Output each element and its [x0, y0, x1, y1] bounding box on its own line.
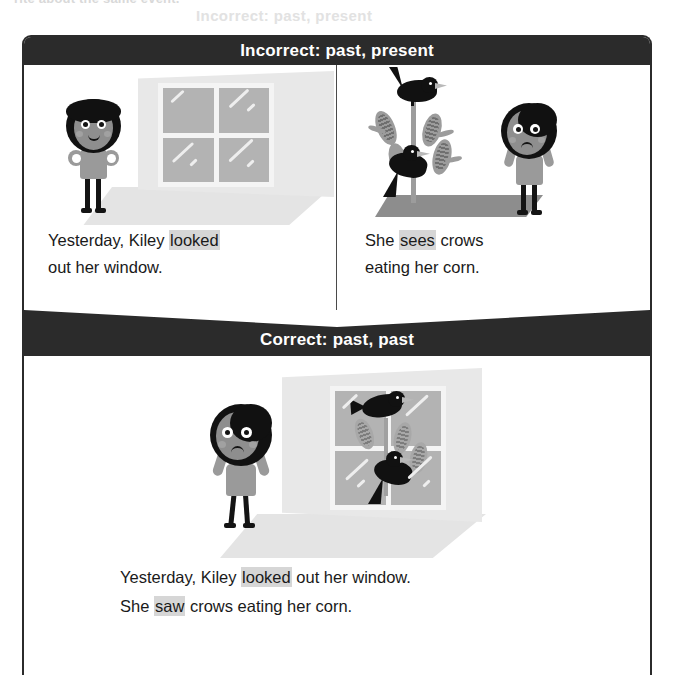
caption-line-2: out her window. — [48, 254, 336, 281]
incorrect-header-bar: Incorrect: past, present — [23, 36, 651, 65]
panel-correct: Yesterday, Kiley looked out her window. … — [24, 356, 650, 621]
girl-cheek-left — [76, 131, 83, 137]
girl3-leg-left — [228, 492, 237, 526]
highlight-looked: looked — [241, 567, 292, 587]
caption-correct: Yesterday, Kiley looked out her window. … — [24, 561, 650, 621]
girl2-shoe-right — [531, 210, 542, 215]
girl2-mouth-frown — [521, 142, 533, 150]
highlight-sees: sees — [399, 230, 436, 250]
scan-bleedthrough-text: rite about the same event. Incorrect: pa… — [0, 0, 673, 26]
crow-lower-tail — [383, 171, 398, 197]
ghost-line-lower: Incorrect: past, present — [196, 7, 372, 24]
caption-sees: She sees crows eating her corn. — [337, 225, 650, 281]
girl-leg-right — [96, 175, 101, 211]
caption-text-pre: She — [120, 597, 154, 615]
highlight-saw: saw — [154, 596, 185, 616]
girl2-pupil-left — [516, 127, 521, 132]
caption-text-post: crows eating her corn. — [185, 597, 352, 615]
girl-figure-at-window — [242, 408, 342, 532]
girl-arm-right-gap — [107, 154, 116, 163]
caption-text-pre: She — [365, 231, 399, 249]
girl2-cheek-left — [509, 137, 516, 143]
comparison-card: Incorrect: past, present — [22, 35, 652, 675]
girl3-leg-right — [243, 492, 250, 526]
illustration-girl-looking-out-window — [24, 65, 336, 225]
girl-shoe-left — [81, 208, 92, 213]
caption-line-1: She sees crows — [365, 227, 650, 254]
crow-top-beak — [435, 83, 447, 89]
caption-line-2: She saw crows eating her corn. — [120, 592, 650, 621]
girl3-shoe-left — [224, 523, 236, 528]
caption-line-1: Yesterday, Kiley looked — [48, 227, 336, 254]
girl-arm-left-gap — [72, 154, 81, 163]
girl2-torso — [516, 155, 543, 185]
illustration-girl-at-window-watching-crows — [24, 356, 650, 561]
girl2-pupil-right — [533, 127, 538, 132]
crow-lower-eye — [411, 150, 414, 153]
crow-w1-eye — [396, 396, 399, 399]
girl3-pupil-left — [225, 430, 230, 435]
caption-text-pre: Yesterday, Kiley — [48, 231, 169, 249]
girl-shoe-right — [95, 208, 106, 213]
caption-text-pre: Yesterday, Kiley — [120, 568, 241, 586]
crow-top-eye — [429, 82, 432, 85]
girl2-leg-left — [521, 181, 526, 213]
girl-pupil-right — [99, 122, 104, 127]
caption-looked: Yesterday, Kiley looked out her window. — [24, 225, 336, 281]
girl-leg-left — [85, 175, 90, 211]
crow-lower — [381, 143, 445, 203]
girl3-mouth-frown — [231, 446, 244, 455]
crow-w1-beak — [402, 397, 414, 403]
window-pane-top-left — [163, 88, 214, 133]
caption-text-post: crows — [436, 231, 484, 249]
girl2-cheek-right — [538, 137, 545, 143]
correct-header-bar: Correct: past, past — [23, 310, 651, 356]
girl3-cheek-left — [218, 441, 226, 448]
incorrect-panels-row: Yesterday, Kiley looked out her window. — [24, 65, 650, 310]
girl3-shoe-right — [243, 523, 255, 528]
girl-pupil-left — [83, 122, 88, 127]
crow-w2-beak — [400, 457, 413, 463]
caption-line-1: Yesterday, Kiley looked out her window. — [120, 563, 650, 592]
girl2-shoe-left — [517, 210, 528, 215]
correct-header-label: Correct: past, past — [260, 330, 414, 350]
illustration-crows-eating-corn — [337, 65, 650, 225]
girl3-cheek-right — [249, 441, 257, 448]
crow-lower-beak — [417, 151, 430, 157]
girl3-bangs — [230, 404, 272, 442]
crow-window-lower — [364, 448, 428, 508]
girl-bangs — [66, 99, 121, 123]
girl3-pupil-right — [244, 430, 249, 435]
panel-sees: She sees crows eating her corn. — [337, 65, 650, 310]
crow-top — [385, 67, 457, 109]
panel-looked: Yesterday, Kiley looked out her window. — [24, 65, 337, 310]
highlight-looked: looked — [169, 230, 220, 250]
girl-figure-happy — [52, 93, 142, 219]
caption-text-post: out her window. — [292, 568, 411, 586]
crow-w2-tail — [368, 478, 383, 504]
crow-w2-eye — [394, 456, 397, 459]
incorrect-header-label: Incorrect: past, present — [240, 41, 434, 60]
girl3-torso — [226, 464, 256, 496]
girl-figure-worried — [487, 99, 583, 219]
crow-top-leg — [411, 98, 414, 106]
ghost-line-upper: rite about the same event. — [14, 0, 180, 6]
girl2-leg-right — [532, 181, 537, 213]
girl-cheek-right — [104, 131, 111, 137]
caption-line-2: eating her corn. — [365, 254, 650, 281]
crow-window-top — [350, 389, 420, 425]
